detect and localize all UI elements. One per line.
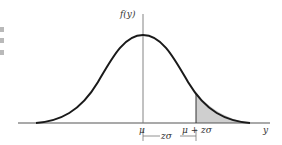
y-axis-end-label: y xyxy=(262,125,269,135)
mu-label: μ xyxy=(139,125,145,135)
normal-curve-diagram: f(y) μ μ + zσ y zσ xyxy=(0,0,282,145)
z-sigma-label: zσ xyxy=(160,131,173,141)
mu-plus-z-sigma-label: μ + zσ xyxy=(182,125,213,135)
f-of-y-label: f(y) xyxy=(119,9,136,19)
shaded-tail-area xyxy=(196,94,250,123)
